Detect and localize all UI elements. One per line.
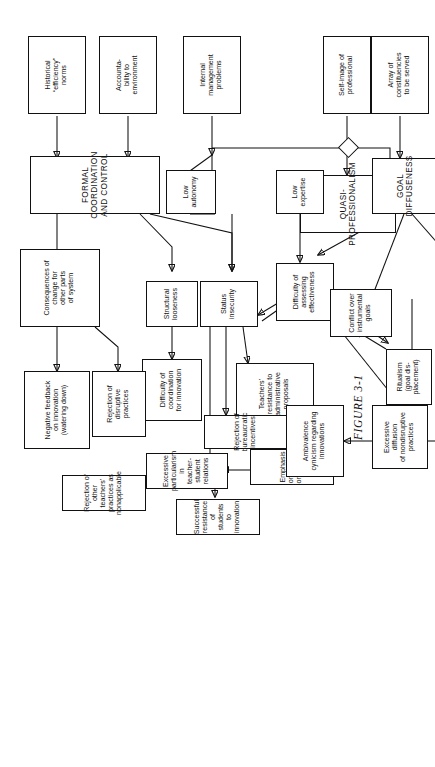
node-conflict-over-instrumental-goals[interactable]: Conflict overinstrumentalgoals bbox=[330, 289, 392, 337]
node-label: Statusinsecurity bbox=[221, 289, 237, 319]
figure-canvas: Historical“efficiency”norms Accounta-bil… bbox=[0, 0, 435, 767]
node-excessive-particularism[interactable]: Excessive particularism inteacher-studen… bbox=[146, 453, 228, 489]
node-ritualism-goal-displacement[interactable]: Ritualism(goal dis-placement) bbox=[386, 349, 432, 405]
node-label: Conflict overinstrumentalgoals bbox=[349, 293, 373, 332]
node-label: Negative feedbackon innovation(watering … bbox=[45, 381, 69, 440]
node-label: QUASI-PROFESSIONALISM bbox=[339, 162, 357, 246]
node-low-expertise[interactable]: Lowexpertise bbox=[276, 170, 324, 214]
node-label: Accounta-bility toenvironment bbox=[116, 55, 140, 94]
node-difficulty-of-coordination-for-innovation[interactable]: Difficulty ofcoordinationfor innovation bbox=[142, 359, 202, 421]
node-label: Successful resistance ofstudents to inno… bbox=[194, 500, 242, 534]
node-label: Rejection ofdisruptivepractices bbox=[107, 385, 131, 422]
node-label: Ambivalencecynicism regardinginnovations bbox=[303, 411, 327, 470]
node-label: Lowautonomy bbox=[183, 176, 199, 207]
node-negative-feedback-on-innovation[interactable]: Negative feedbackon innovation(watering … bbox=[24, 371, 90, 449]
flowchart-rotated-group: Historical“efficiency”norms Accounta-bil… bbox=[0, 0, 435, 767]
node-label: Ritualism(goal dis-placement) bbox=[397, 359, 421, 394]
node-rejection-of-bureaucratic-incentives[interactable]: Rejection ofbureaucraticincentives bbox=[204, 415, 288, 449]
node-historical-norms[interactable]: Historical“efficiency”norms bbox=[28, 36, 86, 114]
node-label: Historical“efficiency”norms bbox=[45, 58, 69, 92]
node-internal-management-problems[interactable]: Internalmanagementproblems bbox=[183, 36, 241, 114]
node-low-autonomy[interactable]: Lowautonomy bbox=[166, 170, 216, 214]
node-status-insecurity[interactable]: Statusinsecurity bbox=[200, 281, 258, 327]
node-label: Lowexpertise bbox=[292, 178, 308, 207]
node-successful-resistance-of-students[interactable]: Successful resistance ofstudents to inno… bbox=[176, 499, 260, 535]
node-label: Structurallooseness bbox=[164, 288, 180, 320]
node-consequences-of-change[interactable]: Consequences ofchange forother partsof s… bbox=[20, 249, 100, 327]
node-formal-coordination-and-control[interactable]: FORMAL COORDINATIONAND CONTROL bbox=[30, 156, 160, 214]
node-structural-looseness[interactable]: Structurallooseness bbox=[146, 281, 198, 327]
node-excessive-diffusion-of-nondisruptive-practices[interactable]: Excessive diffusionof nondisruptivepract… bbox=[372, 405, 428, 469]
node-accountability[interactable]: Accounta-bility toenvironment bbox=[99, 36, 157, 114]
node-label: Difficulty ofcoordinationfor innovation bbox=[160, 369, 184, 412]
node-array-of-constituencies[interactable]: Array ofconstituenciesto be served bbox=[371, 36, 429, 114]
node-rejection-of-disruptive-practices[interactable]: Rejection ofdisruptivepractices bbox=[92, 371, 146, 437]
node-label: Array ofconstituenciesto be served bbox=[388, 53, 412, 98]
node-label: GOALDIFFUSENESS bbox=[396, 155, 414, 216]
node-self-image-of-professional[interactable]: Self-image ofprofessional bbox=[323, 36, 371, 114]
figure-caption: FIGURE 3-1 bbox=[352, 374, 364, 440]
node-label: FORMAL COORDINATIONAND CONTROL bbox=[81, 151, 109, 218]
node-label: Rejection ofbureaucraticincentives bbox=[234, 412, 258, 451]
node-label: Excessive particularism inteacher-studen… bbox=[163, 451, 211, 491]
node-label: Self-image ofprofessional bbox=[339, 54, 355, 96]
node-rejection-of-other-teachers-practices[interactable]: Rejection of other teachers’practices as… bbox=[62, 475, 146, 511]
node-label: Consequences ofchange forother partsof s… bbox=[44, 260, 76, 315]
node-ambivalence-cynicism[interactable]: Ambivalencecynicism regardinginnovations bbox=[286, 405, 344, 477]
node-goal-diffuseness[interactable]: GOALDIFFUSENESS bbox=[372, 158, 435, 214]
node-label: Excessive diffusionof nondisruptivepract… bbox=[384, 408, 416, 466]
node-difficulty-of-assessing-effectiveness[interactable]: Difficulty ofassessingeffectiveness bbox=[276, 263, 334, 321]
node-label: Internalmanagementproblems bbox=[200, 54, 224, 95]
node-label: Rejection of other teachers’practices as… bbox=[84, 471, 124, 515]
node-label: Difficulty ofassessingeffectiveness bbox=[293, 271, 317, 312]
